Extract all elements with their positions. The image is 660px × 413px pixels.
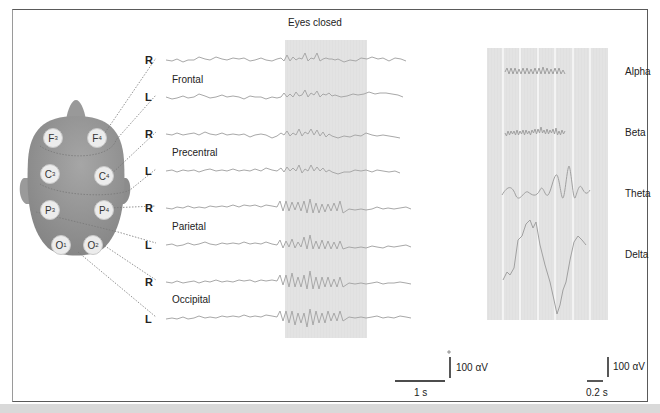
rhythm-label-theta: Theta bbox=[625, 189, 651, 199]
channel-label-occipital-l: L bbox=[145, 314, 152, 325]
scale-left-amplitude: 100 αV bbox=[456, 363, 488, 373]
electrode-o2: O2 bbox=[83, 235, 103, 255]
rhythm-label-beta: Beta bbox=[625, 128, 646, 138]
scale-right-time: 0.2 s bbox=[586, 388, 608, 398]
region-label-parietal: Parietal bbox=[172, 222, 206, 232]
rhythm-label-delta: Delta bbox=[625, 250, 648, 260]
scale-bars bbox=[395, 357, 608, 381]
electrode-c4: C4 bbox=[94, 166, 114, 186]
channel-label-parietal-l: L bbox=[145, 240, 152, 251]
channel-label-precentral-r: R bbox=[145, 129, 153, 140]
rhythm-label-alpha: Alpha bbox=[625, 67, 651, 77]
channel-label-parietal-r: R bbox=[145, 203, 153, 214]
electrode-p4: P4 bbox=[94, 200, 114, 220]
electrode-f4: F4 bbox=[87, 128, 107, 148]
scale-right-amplitude: 100 αV bbox=[613, 362, 645, 372]
eyes-closed-label: Eyes closed bbox=[288, 18, 342, 28]
region-label-occipital: Occipital bbox=[172, 295, 210, 305]
channel-label-precentral-l: L bbox=[145, 166, 152, 177]
region-label-precentral: Precentral bbox=[172, 148, 218, 158]
trace-frontal-l bbox=[166, 90, 403, 99]
channel-label-frontal-l: L bbox=[145, 92, 152, 103]
rhythm-panel bbox=[487, 48, 608, 320]
eyes-closed-band bbox=[285, 40, 367, 338]
electrode-o1: O1 bbox=[51, 235, 71, 255]
channel-label-frontal-r: R bbox=[145, 55, 153, 66]
electrode-f3: F3 bbox=[43, 128, 63, 148]
electrode-c3: C3 bbox=[40, 164, 60, 184]
region-label-frontal: Frontal bbox=[172, 75, 203, 85]
electrode-p3: P3 bbox=[40, 200, 60, 220]
scale-left-time: 1 s bbox=[414, 388, 427, 398]
channel-label-occipital-r: R bbox=[145, 277, 153, 288]
